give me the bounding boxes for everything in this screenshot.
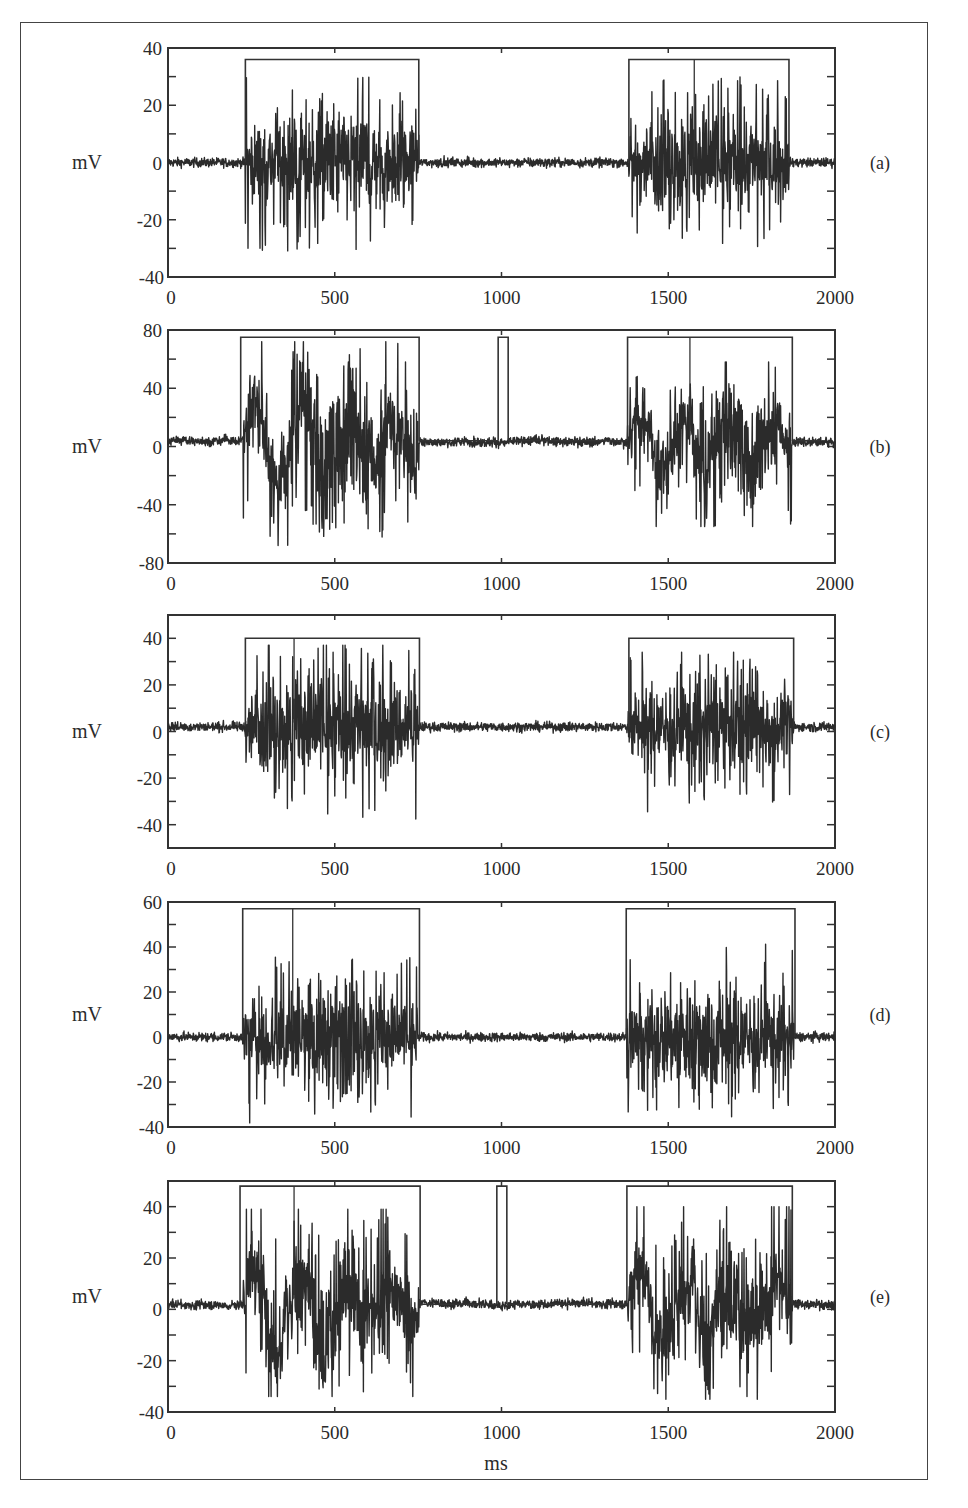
y-tick-label: -20 [137, 768, 162, 789]
y-axis-label: mV [72, 435, 103, 457]
y-tick-label: -40 [137, 495, 162, 516]
emg-trace [168, 944, 835, 1123]
x-tick-label: 1000 [483, 1422, 521, 1443]
x-tick-label: 1000 [483, 1137, 521, 1158]
panel-label: (a) [870, 153, 890, 174]
y-tick-label: -20 [137, 210, 162, 231]
gate-box [498, 337, 508, 440]
y-tick-label: 20 [143, 982, 162, 1003]
x-tick-label: 1500 [649, 858, 687, 879]
y-tick-label: 40 [143, 628, 162, 649]
y-tick-label: -40 [139, 267, 164, 288]
emg-trace [168, 342, 835, 546]
x-tick-label: 1500 [649, 1137, 687, 1158]
panel-label: (b) [870, 437, 891, 458]
y-tick-label: 0 [153, 437, 163, 458]
panel-c: -40-20020400500100015002000mV(c) [72, 615, 890, 879]
x-tick-label: 2000 [816, 858, 854, 879]
y-tick-label: -40 [139, 1117, 164, 1138]
x-tick-label: 2000 [816, 287, 854, 308]
y-tick-label: 0 [153, 1299, 163, 1320]
panel-label: (d) [870, 1005, 891, 1026]
x-tick-label: 1500 [649, 573, 687, 594]
y-axis-label: mV [72, 720, 103, 742]
x-tick-label: 1000 [483, 287, 521, 308]
x-tick-label: 500 [321, 1137, 350, 1158]
y-tick-label: 60 [143, 892, 162, 913]
y-tick-label: -40 [139, 1402, 164, 1423]
y-axis-label: mV [72, 151, 103, 173]
x-tick-label: 0 [166, 1137, 176, 1158]
gate-box [497, 1186, 507, 1304]
panel-a: -40-20020400500100015002000mV(a) [72, 38, 890, 308]
x-axis-label: ms [484, 1452, 508, 1474]
y-axis-label: mV [72, 1285, 103, 1307]
y-tick-label: -20 [137, 1351, 162, 1372]
x-tick-label: 2000 [816, 1422, 854, 1443]
y-tick-label: 20 [143, 1248, 162, 1269]
y-tick-label: 0 [153, 1027, 163, 1048]
y-tick-label: 40 [143, 937, 162, 958]
y-tick-label: -80 [139, 553, 164, 574]
x-tick-label: 500 [321, 858, 350, 879]
x-tick-label: 1000 [483, 858, 521, 879]
y-tick-label: 20 [143, 95, 162, 116]
y-tick-label: -40 [137, 815, 162, 836]
y-tick-label: 40 [143, 38, 162, 59]
x-tick-label: 500 [321, 573, 350, 594]
panel-d: -40-2002040600500100015002000mV(d) [72, 892, 891, 1158]
x-tick-label: 2000 [816, 1137, 854, 1158]
x-tick-label: 2000 [816, 573, 854, 594]
y-tick-label: 0 [153, 722, 163, 743]
panel-b: -80-40040800500100015002000mV(b) [72, 320, 891, 594]
y-tick-label: 80 [143, 320, 162, 341]
figure: -40-20020400500100015002000mV(a)-80-4004… [0, 0, 968, 1508]
x-tick-label: 0 [166, 287, 176, 308]
y-tick-label: 20 [143, 675, 162, 696]
x-tick-label: 500 [321, 1422, 350, 1443]
x-tick-label: 0 [166, 573, 176, 594]
y-tick-label: 40 [143, 378, 162, 399]
y-tick-label: 0 [153, 153, 163, 174]
y-tick-label: 40 [143, 1197, 162, 1218]
y-axis-label: mV [72, 1003, 103, 1025]
panel-label: (c) [870, 722, 890, 743]
emg-trace [168, 645, 835, 819]
y-tick-label: -20 [137, 1072, 162, 1093]
x-tick-label: 0 [166, 858, 176, 879]
x-tick-label: 1500 [649, 1422, 687, 1443]
panel-label: (e) [870, 1287, 890, 1308]
emg-trace [168, 1207, 835, 1400]
x-tick-label: 0 [166, 1422, 176, 1443]
panel-e: -40-20020400500100015002000mV(e) [72, 1181, 890, 1443]
x-tick-label: 1000 [483, 573, 521, 594]
x-tick-label: 500 [321, 287, 350, 308]
emg-trace [168, 77, 835, 251]
x-tick-label: 1500 [649, 287, 687, 308]
